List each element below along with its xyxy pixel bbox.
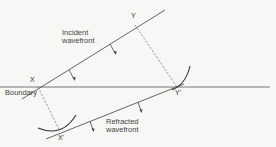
incident-wavefront-line [22,10,165,99]
incident-arrow-1 [69,70,76,81]
incident-arrow-2 [110,44,117,55]
dashed-line-x-xprime [38,87,60,131]
incident-label-line2: wavefront [62,37,95,45]
point-y-prime-label: Y' [175,89,181,96]
refracted-arrow-1 [90,121,95,132]
wavelet-arc-y-prime [172,66,190,90]
wavelet-arc-x-prime [38,115,76,131]
point-y-label: Y [131,12,136,19]
point-x-label: X [30,76,35,83]
refracted-label-line2: wavefront [106,126,139,134]
dashed-line-y-yprime [135,25,177,87]
refracted-arrow-2 [138,102,143,113]
boundary-label: Boundary [5,89,37,97]
point-x-prime-label: X' [58,134,64,141]
